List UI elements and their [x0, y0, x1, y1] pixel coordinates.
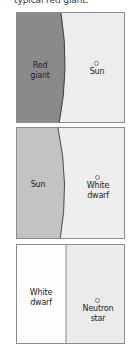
panel-white-dwarf-vs-neutron-star: White dwarf Neutron star: [16, 244, 125, 344]
white-dwarf-label: White dwarf: [79, 181, 117, 201]
neutron-star-marker-icon: [95, 298, 100, 303]
red-giant-label: Red giant: [23, 61, 57, 81]
white-dwarf-label: White dwarf: [23, 288, 59, 308]
sun-label: Sun: [21, 180, 55, 190]
caption-text: typical red giant.: [14, 0, 89, 5]
sun-marker-icon: [94, 61, 99, 66]
panel-sun-vs-white-dwarf: Sun White dwarf: [16, 127, 125, 239]
neutron-star-label: Neutron star: [76, 304, 120, 324]
panel-red-giant-vs-sun: Red giant Sun: [16, 12, 125, 123]
white-dwarf-marker-icon: [95, 175, 100, 180]
sun-label: Sun: [80, 67, 114, 77]
